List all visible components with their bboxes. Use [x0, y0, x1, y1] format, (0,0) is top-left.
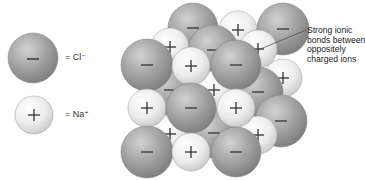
legend-chloride-sphere: [8, 33, 58, 83]
chloride-ion-sphere: [121, 39, 173, 91]
chloride-ion-sphere: [166, 83, 216, 133]
legend-sodium-label: = Na⁺: [65, 109, 89, 119]
chloride-ion-sphere: [211, 127, 261, 177]
legend-chloride-label: = Cl⁻: [65, 52, 86, 62]
sodium-ion-sphere: [172, 47, 210, 85]
chloride-ion-sphere: [121, 126, 173, 178]
sodium-ion-sphere: [128, 89, 166, 127]
crystal-lattice: [121, 3, 309, 178]
sodium-ion-sphere: [217, 89, 255, 127]
ionic-bond-callout: Strong ionic bonds between oppositely ch…: [307, 26, 365, 64]
callout-line-4: charged ions: [307, 55, 365, 65]
sodium-ion-sphere: [172, 133, 210, 171]
chloride-ion-sphere: [211, 40, 261, 90]
legend-sodium-sphere: [15, 96, 53, 134]
